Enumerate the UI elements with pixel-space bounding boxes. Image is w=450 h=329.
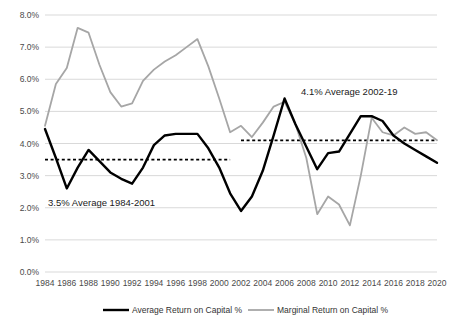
y-axis-tick-label: 4.0% [20, 139, 40, 149]
x-axis-tick-label: 1994 [144, 278, 163, 288]
y-axis-tick-label: 2.0% [20, 203, 40, 213]
y-axis-tick-label: 7.0% [20, 42, 40, 52]
y-axis-tick-label: 8.0% [20, 10, 40, 20]
chart-annotations: 3.5% Average 1984-20014.1% Average 2002-… [48, 86, 397, 208]
x-axis-tick-label: 1992 [123, 278, 142, 288]
y-axis-tick-label: 3.0% [20, 171, 40, 181]
chart-legend: Average Return on Capital %Marginal Retu… [103, 305, 388, 315]
x-axis-tick-labels: 1984198619881990199219941996199820002002… [36, 278, 447, 288]
x-axis-tick-label: 1986 [57, 278, 76, 288]
x-axis-tick-label: 1996 [166, 278, 185, 288]
data-series [45, 28, 437, 226]
x-axis-tick-label: 2020 [428, 278, 447, 288]
y-axis-tick-label: 1.0% [20, 235, 40, 245]
x-axis-tick-label: 2018 [406, 278, 425, 288]
annotation-average-1984-2001: 3.5% Average 1984-2001 [48, 197, 155, 208]
x-axis-tick-label: 1988 [79, 278, 98, 288]
x-axis-tick-label: 2008 [297, 278, 316, 288]
legend-label: Marginal Return on Capital % [277, 305, 388, 315]
line-chart: 0.0%1.0%2.0%3.0%4.0%5.0%6.0%7.0%8.0% 198… [0, 0, 450, 329]
legend-label: Average Return on Capital % [132, 305, 242, 315]
x-axis-tick-label: 1998 [188, 278, 207, 288]
x-axis-tick-label: 2010 [319, 278, 338, 288]
x-axis-tick-label: 2000 [210, 278, 229, 288]
x-axis-tick-label: 2006 [275, 278, 294, 288]
y-axis-tick-label: 5.0% [20, 106, 40, 116]
x-axis-tick-label: 2002 [232, 278, 251, 288]
annotation-average-2002-2019: 4.1% Average 2002-19 [301, 86, 397, 97]
series-line-marginal-return [45, 28, 437, 226]
series-line-average-return [45, 99, 437, 211]
x-axis-tick-label: 2014 [362, 278, 381, 288]
y-axis-tick-label: 6.0% [20, 74, 40, 84]
x-axis-tick-label: 1984 [36, 278, 55, 288]
x-axis-tick-label: 1990 [101, 278, 120, 288]
y-axis-tick-label: 0.0% [20, 267, 40, 277]
x-axis-tick-label: 2016 [384, 278, 403, 288]
x-axis-tick-label: 2012 [340, 278, 359, 288]
x-axis-tick-label: 2004 [253, 278, 272, 288]
chart-container: 0.0%1.0%2.0%3.0%4.0%5.0%6.0%7.0%8.0% 198… [0, 0, 450, 329]
gridlines [45, 15, 437, 272]
y-axis-tick-labels: 0.0%1.0%2.0%3.0%4.0%5.0%6.0%7.0%8.0% [20, 10, 40, 277]
